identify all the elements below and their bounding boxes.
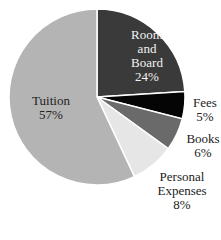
label-personal-expenses: Personal Expenses 8%: [146, 170, 218, 210]
label-fees: Fees 5%: [188, 96, 221, 124]
label-text: Personal: [146, 170, 218, 184]
label-value: 6%: [183, 146, 221, 160]
label-room-and-board: Room and Board 24%: [110, 28, 184, 84]
label-value: 5%: [188, 110, 221, 124]
label-text: Room: [110, 28, 184, 42]
label-value: 24%: [110, 70, 184, 84]
label-text: Fees: [188, 96, 221, 110]
label-value: 8%: [146, 198, 218, 210]
label-tuition: Tuition 57%: [18, 94, 84, 122]
label-text: Tuition: [18, 94, 84, 108]
label-value: 57%: [18, 108, 84, 122]
label-text: Books: [183, 132, 221, 146]
label-text: and: [110, 42, 184, 56]
label-text: Expenses: [146, 184, 218, 198]
label-books: Books 6%: [183, 132, 221, 160]
label-text: Board: [110, 56, 184, 70]
